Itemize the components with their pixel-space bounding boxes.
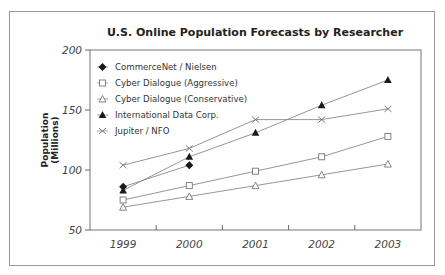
x-tick-label: 1999	[110, 238, 137, 250]
x-tick-label: 2003	[375, 238, 402, 250]
legend-item: CommerceNet / Nielsen	[97, 62, 217, 72]
legend-label: CommerceNet / Nielsen	[115, 62, 217, 72]
chart-title: U.S. Online Population Forecasts by Rese…	[107, 26, 404, 39]
open-square-marker-icon	[385, 133, 391, 139]
legend-item: Cyber Dialogue (Conservative)	[97, 94, 247, 104]
y-axis-label: Population(Millions)	[40, 113, 60, 168]
x-tick-label: 2000	[176, 238, 203, 250]
y-axis-label-line: (Millions)	[50, 116, 60, 163]
legend-label: International Data Corp.	[115, 110, 219, 120]
open-square-marker-icon	[186, 183, 192, 189]
y-tick-label: 50	[69, 224, 83, 236]
y-tick-label: 100	[62, 164, 82, 176]
legend-label: Cyber Dialogue (Aggressive)	[115, 78, 238, 88]
y-tick-label: 150	[62, 104, 82, 116]
legend-item: International Data Corp.	[97, 110, 219, 120]
legend-item: Cyber Dialogue (Aggressive)	[97, 78, 238, 88]
line-chart: U.S. Online Population Forecasts by Rese…	[0, 0, 445, 275]
y-axis-label-line: Population	[40, 113, 50, 168]
x-tick-label: 2002	[308, 238, 335, 250]
x-tick-label: 2001	[242, 238, 269, 250]
y-tick-label: 200	[62, 44, 82, 56]
legend-label: Jupiter / NFO	[114, 126, 170, 136]
legend-label: Cyber Dialogue (Conservative)	[115, 94, 247, 104]
open-square-marker-icon	[100, 80, 106, 86]
open-square-marker-icon	[120, 197, 126, 203]
open-square-marker-icon	[319, 154, 325, 160]
open-square-marker-icon	[253, 168, 259, 174]
